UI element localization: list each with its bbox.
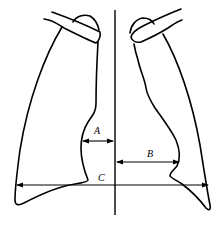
- label-a: A: [93, 125, 101, 136]
- measurement-c: C: [16, 172, 209, 188]
- left-lung-outline: [15, 27, 98, 205]
- right-lung-apex: [130, 18, 154, 33]
- measurement-b: B: [116, 148, 180, 165]
- measurement-a: A: [82, 125, 114, 144]
- left-lung-apex: [73, 15, 99, 30]
- arrowhead-a-left: [82, 139, 89, 144]
- arrowhead-b-left: [116, 160, 123, 165]
- arrowhead-c-left: [16, 183, 23, 188]
- label-b: B: [147, 148, 153, 159]
- right-lung-outline: [134, 34, 210, 210]
- chest-diagram: A B C: [0, 0, 222, 231]
- arrowhead-a-right: [107, 139, 114, 144]
- label-c: C: [98, 172, 105, 183]
- right-clavicle: [131, 9, 182, 42]
